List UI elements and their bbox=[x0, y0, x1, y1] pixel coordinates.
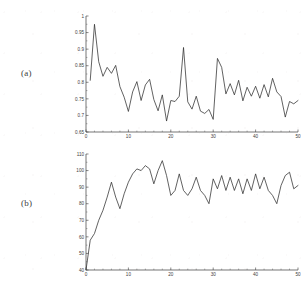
y-tick-label: 40 bbox=[79, 268, 85, 273]
x-tick-label: 40 bbox=[253, 134, 259, 139]
y-tick-label: 50 bbox=[79, 251, 85, 256]
y-tick-label: 0.8 bbox=[78, 80, 85, 85]
y-tick-label: 0.85 bbox=[75, 63, 84, 68]
figure-container: (a) 0.650.70.750.80.850.90.9510102030405… bbox=[0, 0, 304, 281]
panel-a-svg: 0.650.70.750.80.850.90.95101020304050 bbox=[86, 16, 298, 132]
axis-spines bbox=[86, 154, 298, 270]
y-tick-label: 60 bbox=[79, 235, 85, 240]
x-tick-label: 30 bbox=[211, 134, 217, 139]
x-tick-label: 20 bbox=[168, 134, 174, 139]
panel-b-svg: 40506070809010011001020304050 bbox=[86, 154, 298, 270]
x-tick-label: 20 bbox=[168, 272, 174, 277]
data-series-line bbox=[86, 161, 298, 270]
y-tick-label: 100 bbox=[76, 168, 84, 173]
y-tick-label: 80 bbox=[79, 201, 85, 206]
x-tick-label: 30 bbox=[211, 272, 217, 277]
y-tick-label: 0.65 bbox=[75, 130, 84, 135]
y-tick-label: 0.75 bbox=[75, 97, 84, 102]
y-tick-label: 110 bbox=[77, 152, 85, 157]
panel-b: (b) 40506070809010011001020304050 bbox=[0, 140, 304, 281]
y-tick-label: 0.7 bbox=[78, 113, 85, 118]
x-tick-label: 10 bbox=[126, 272, 132, 277]
y-tick-label: 0.9 bbox=[78, 47, 85, 52]
panel-b-label: (b) bbox=[21, 198, 32, 208]
data-series-line bbox=[90, 24, 298, 121]
y-tick-label: 0.95 bbox=[75, 30, 84, 35]
x-tick-label: 0 bbox=[85, 134, 88, 139]
x-tick-label: 50 bbox=[295, 134, 301, 139]
y-tick-label: 1 bbox=[81, 14, 84, 19]
axis-spines bbox=[86, 16, 298, 132]
y-tick-label: 70 bbox=[79, 218, 85, 223]
y-tick-label: 90 bbox=[79, 185, 85, 190]
x-tick-label: 0 bbox=[85, 272, 88, 277]
panel-a-plot: 0.650.70.750.80.850.90.95101020304050 bbox=[86, 16, 298, 132]
x-tick-label: 10 bbox=[126, 134, 132, 139]
panel-a-label: (a) bbox=[21, 68, 32, 78]
panel-b-plot: 40506070809010011001020304050 bbox=[86, 154, 298, 270]
x-tick-label: 40 bbox=[253, 272, 259, 277]
panel-a: (a) 0.650.70.750.80.850.90.9510102030405… bbox=[0, 0, 304, 142]
x-tick-label: 50 bbox=[295, 272, 301, 277]
